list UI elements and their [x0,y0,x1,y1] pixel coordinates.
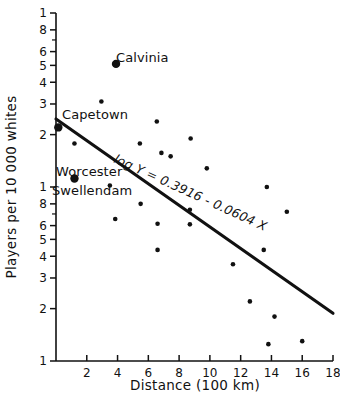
data-point-highlighted [54,123,62,131]
x-tick-label: 16 [295,366,310,380]
data-point [99,99,104,104]
data-point [266,342,271,347]
x-axis-title: Distance (100 km) [130,377,260,393]
data-point [248,299,253,304]
data-point [159,151,164,156]
y-tick-label: 1 [39,6,47,20]
point-label-worcester: Worcester [56,164,123,179]
y-tick-label: 4 [39,76,47,90]
y-tick-label: 5 [39,233,47,247]
regression-equation-label: log Y = 0.3916 - 0.0604 X [112,151,270,234]
x-tick-label: 18 [325,366,340,380]
y-axis-title: Players per 10 000 whites [3,95,19,278]
point-label-capetown: Capetown [62,107,128,122]
y-tick-label: 2 [39,128,47,142]
point-label-calvinia: Calvinia [116,50,169,65]
data-point [188,222,193,227]
data-point [265,185,270,190]
data-point [154,119,159,124]
data-points [54,60,304,347]
data-point [113,217,118,222]
y-tick-label: 6 [39,45,47,59]
data-point [272,314,277,319]
regression-line [56,119,333,313]
x-tick-label: 2 [83,366,91,380]
data-point [138,202,143,207]
data-point [155,221,160,226]
data-point [155,248,160,253]
point-label-swellendam: Swellendam [52,183,132,198]
scatter-plot-figure: 186543218654321 24681012141618 Calvinia … [0,0,340,397]
data-point [138,141,143,146]
data-point [231,262,236,267]
data-point [285,210,290,215]
x-tick-label: 14 [264,366,279,380]
y-tick-label: 1 [39,354,47,368]
data-point [300,339,305,344]
data-point [261,248,266,253]
y-tick-label: 3 [39,97,47,111]
y-tick-label: 3 [39,271,47,285]
data-point [188,136,193,141]
y-tick-label: 2 [39,302,47,316]
y-tick-label: 8 [39,197,47,211]
y-tick-label: 4 [39,250,47,264]
data-point [72,141,77,146]
chart-canvas: 186543218654321 24681012141618 Calvinia … [0,0,340,397]
y-tick-label: 8 [39,23,47,37]
y-tick-label: 5 [39,59,47,73]
y-tick-label: 1 [39,180,47,194]
data-point [188,207,193,212]
data-point [205,166,210,171]
y-tick-label: 6 [39,219,47,233]
data-point [168,154,173,159]
x-tick-label: 4 [114,366,122,380]
